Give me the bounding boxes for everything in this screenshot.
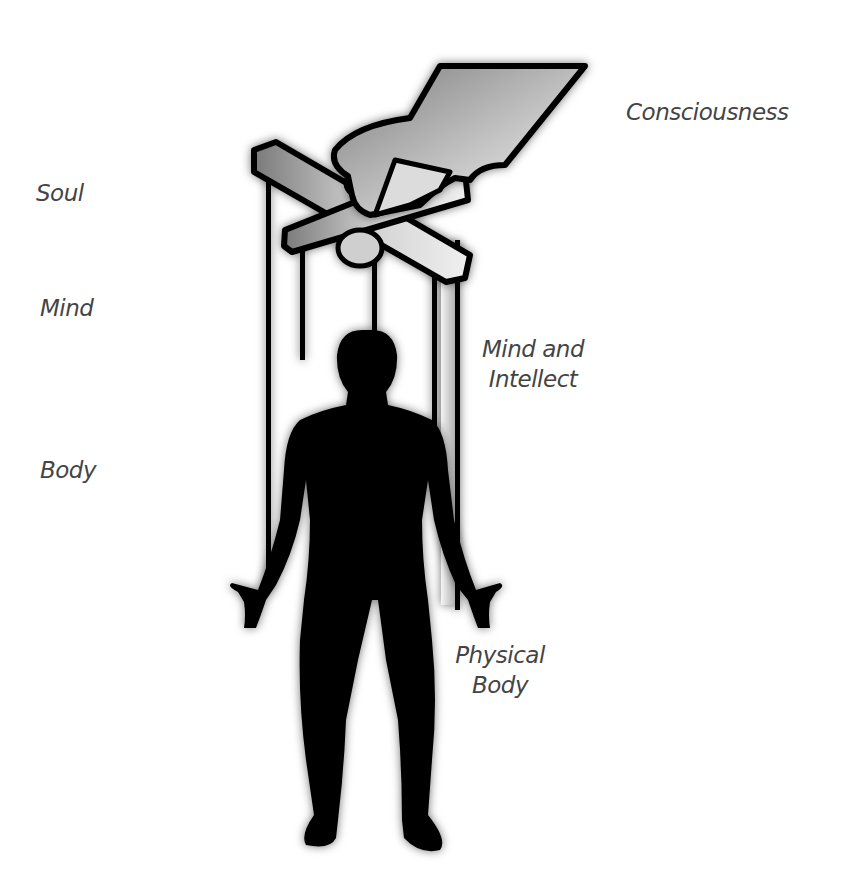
marionette-illustration [0, 0, 846, 876]
label-mind-and-intellect: Mind and Intellect [478, 334, 588, 394]
label-mind: Mind [40, 293, 93, 323]
label-physical-body-line1: Physical [450, 640, 550, 670]
label-mind-and-intellect-line1: Mind and [478, 334, 588, 364]
label-body: Body [40, 455, 96, 485]
label-physical-body-line2: Body [450, 670, 550, 700]
label-soul: Soul [36, 178, 84, 208]
label-physical-body: Physical Body [450, 640, 550, 700]
label-consciousness: Consciousness [626, 97, 789, 127]
label-mind-and-intellect-line2: Intellect [478, 364, 588, 394]
